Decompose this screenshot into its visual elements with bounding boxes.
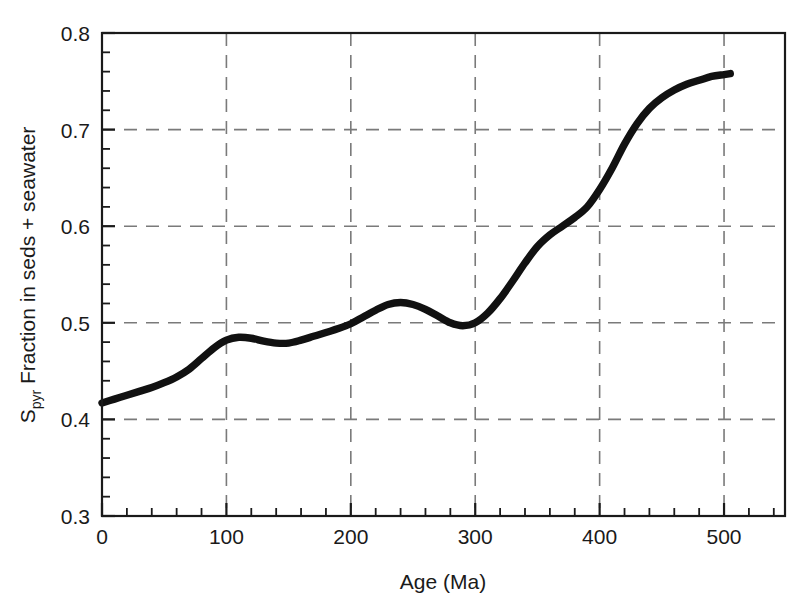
y-axis-title: Spyr Fraction in seds + seawater <box>16 127 44 424</box>
x-tick-label: 400 <box>582 525 617 548</box>
x-tick-label: 200 <box>333 525 368 548</box>
x-tick-label: 0 <box>96 525 108 548</box>
x-tick-label: 500 <box>707 525 742 548</box>
y-tick-label: 0.7 <box>61 119 90 142</box>
plot-area-background <box>102 33 785 516</box>
x-axis-tick-labels: 0100200300400500 <box>96 525 741 548</box>
y-axis-title-suffix: Fraction in seds + seawater <box>16 127 39 390</box>
y-axis-title-prefix: S <box>16 409 39 423</box>
chart-canvas: 0.30.40.50.60.70.8 0100200300400500 Age … <box>0 0 800 606</box>
x-tick-label: 100 <box>209 525 244 548</box>
figure-container: 0.30.40.50.60.70.8 0100200300400500 Age … <box>0 0 800 606</box>
x-tick-label: 300 <box>458 525 493 548</box>
y-tick-label: 0.8 <box>61 22 90 45</box>
y-tick-label: 0.6 <box>61 215 90 238</box>
x-axis-title: Age (Ma) <box>400 570 486 593</box>
y-axis-title-subscript: pyr <box>28 390 44 410</box>
y-axis-tick-labels: 0.30.40.50.60.70.8 <box>61 22 91 528</box>
y-tick-label: 0.4 <box>61 408 91 431</box>
y-tick-label: 0.5 <box>61 312 90 335</box>
y-tick-label: 0.3 <box>61 505 90 528</box>
